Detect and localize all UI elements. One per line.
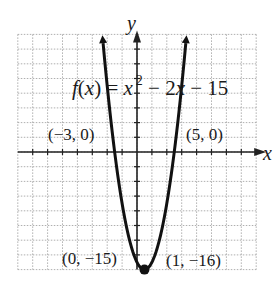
vertex-point	[139, 265, 149, 275]
annotation-vertex: (1, −16)	[166, 251, 221, 270]
parabola-graph: y x f(x) = x2 − 2x − 15 (−3, 0) (5, 0) (…	[0, 0, 278, 289]
axes	[18, 30, 266, 269]
annotation-right-root: (5, 0)	[186, 125, 223, 144]
annotation-y-intercept: (0, −15)	[62, 249, 117, 268]
x-axis-label: x	[262, 142, 272, 164]
y-axis-label: y	[125, 12, 136, 35]
annotation-left-root: (−3, 0)	[48, 125, 94, 144]
function-label: f(x) = x2 − 2x − 15	[72, 73, 228, 100]
